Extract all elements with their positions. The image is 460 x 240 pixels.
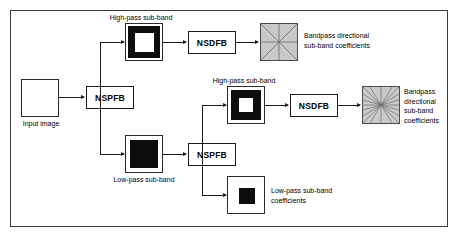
nsdfb-stage2-label: NSDFB xyxy=(299,101,329,111)
highpass-stage1-label: High-pass sub-band xyxy=(99,13,183,23)
highpass-stage2-core xyxy=(239,98,253,112)
input-image-label: Input image xyxy=(15,119,67,129)
bandpass-coefficients-stage2 xyxy=(362,86,400,124)
bandpass-coefficients-stage1-label: Bandpass directional sub-band coefficien… xyxy=(304,31,414,50)
highpass-stage2-label: High-pass sub-band xyxy=(202,76,286,86)
lowpass-stage1-thumbnail xyxy=(125,135,163,173)
arrowhead-input-to-nspfb1 xyxy=(81,95,85,99)
lowpass-coefficients-core xyxy=(239,188,255,204)
arrowhead-nsdfb2-to-coeff2 xyxy=(357,103,361,107)
connector-nspfb1-split-trunk xyxy=(100,42,101,154)
diagram-frame: Input image NSPFB High-pass sub-band NSD… xyxy=(10,10,448,227)
bandpass-coefficients-stage2-directions xyxy=(363,87,399,123)
nspfb-stage2-box[interactable]: NSPFB xyxy=(188,143,236,166)
input-image-thumbnail xyxy=(21,79,59,117)
lowpass-stage1-label: Low-pass sub-band xyxy=(102,175,186,185)
nsdfb-stage1-label: NSDFB xyxy=(197,38,227,48)
highpass-stage2-ring xyxy=(231,90,261,120)
bandpass-coefficients-stage1-directions xyxy=(261,24,297,60)
arrowhead-lowpass1-to-nspfb2 xyxy=(183,152,187,156)
lowpass-coefficients-label: Low-pass sub-band coefficients xyxy=(271,186,357,205)
highpass-stage1-core xyxy=(135,33,154,52)
nspfb-stage1-box[interactable]: NSPFB xyxy=(86,86,134,109)
highpass-stage1-ring xyxy=(128,26,160,58)
lowpass-stage1-core xyxy=(130,140,158,168)
bandpass-coefficients-stage1 xyxy=(260,23,298,61)
arrowhead-highpass2-to-nsdfb2 xyxy=(285,103,289,107)
nsdfb-stage2-box[interactable]: NSDFB xyxy=(290,94,338,117)
nsdfb-stage1-box[interactable]: NSDFB xyxy=(188,31,236,54)
highpass-stage2-thumbnail xyxy=(227,86,265,124)
highpass-stage1-thumbnail xyxy=(125,23,163,61)
lowpass-coefficients-thumbnail xyxy=(227,176,265,214)
bandpass-coefficients-stage2-label: Bandpass directional sub-band coefficien… xyxy=(404,87,452,125)
arrowhead-highpass1-to-nsdfb1 xyxy=(183,40,187,44)
diagram-canvas: Input image NSPFB High-pass sub-band NSD… xyxy=(0,0,460,240)
connector-nspfb2-split-trunk xyxy=(202,105,203,195)
arrowhead-nsdfb1-to-coeff1 xyxy=(255,40,259,44)
